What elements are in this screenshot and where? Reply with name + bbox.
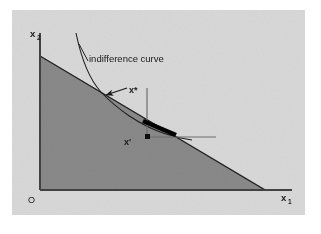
figure-container: x 2 x 1 O indifference curve x* x' bbox=[0, 0, 321, 234]
interior-point-marker bbox=[145, 134, 150, 139]
origin-label: O bbox=[28, 195, 35, 205]
indifference-curve-label: indifference curve bbox=[89, 53, 164, 64]
indifference-curve-diagram: x 2 x 1 O indifference curve x* x' bbox=[0, 0, 321, 234]
interior-bundle-label: x' bbox=[124, 137, 131, 147]
optimum-bundle-label: x* bbox=[129, 85, 138, 95]
x-axis-label-subscript: 1 bbox=[288, 198, 292, 205]
x-axis-label: x bbox=[281, 192, 287, 203]
y-axis-label: x bbox=[30, 28, 36, 39]
y-axis-label-subscript: 2 bbox=[37, 34, 41, 41]
